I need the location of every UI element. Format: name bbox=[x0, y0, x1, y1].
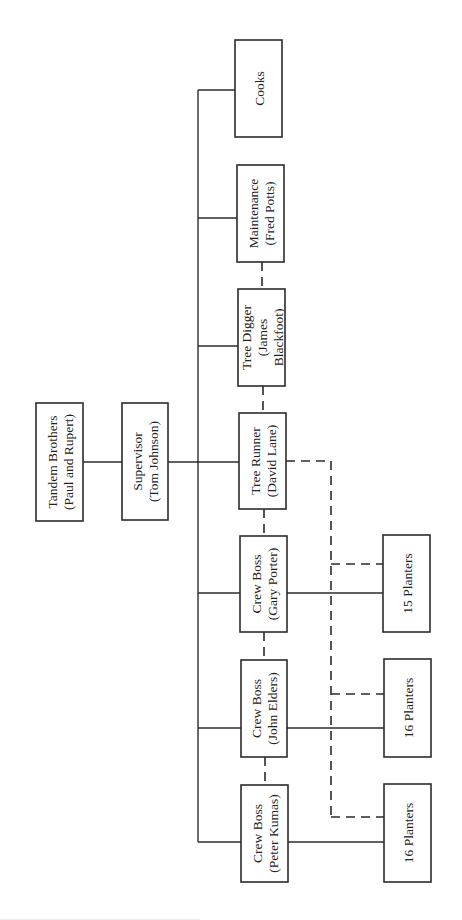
node-box bbox=[241, 785, 288, 882]
node-label: 15 Planters bbox=[400, 553, 415, 613]
node-tree-digger: Tree Digger(JamesBlackfoot) bbox=[238, 289, 286, 386]
node-label: Crew Boss(Peter Kumas) bbox=[250, 794, 281, 872]
node-label: Tree Runner(David Lane) bbox=[248, 425, 279, 497]
node-label-line: Supervisor bbox=[130, 432, 145, 491]
node-label-line: Cooks bbox=[252, 71, 267, 106]
node-label: Cooks bbox=[252, 71, 267, 106]
node-label: Maintenance(Fred Potts) bbox=[246, 179, 277, 249]
node-label: Tandem Brothers(Paul and Rupert) bbox=[45, 414, 76, 510]
node-label: 16 Planters bbox=[401, 678, 416, 738]
node-cooks: Cooks bbox=[235, 40, 282, 137]
org-nodes: Tandem Brothers(Paul and Rupert)Supervis… bbox=[36, 40, 431, 882]
node-box bbox=[239, 413, 286, 509]
node-label-line: 16 Planters bbox=[401, 803, 416, 863]
node-label-line: Blackfoot) bbox=[271, 309, 286, 367]
node-label: Crew Boss(John Elders) bbox=[249, 672, 280, 744]
node-label: Supervisor(Tom Johnson) bbox=[130, 421, 161, 502]
node-label-line: Crew Boss bbox=[249, 555, 264, 614]
node-label-line: (David Lane) bbox=[264, 425, 279, 497]
node-crew-boss-john: Crew Boss(John Elders) bbox=[241, 660, 287, 757]
node-planters-15: 15 Planters bbox=[383, 535, 430, 632]
node-label-line: Crew Boss bbox=[250, 804, 265, 863]
node-crew-boss-gary: Crew Boss(Gary Porter) bbox=[240, 536, 287, 632]
node-crew-boss-peter: Crew Boss(Peter Kumas) bbox=[241, 785, 288, 882]
node-label-line: (James bbox=[255, 319, 270, 357]
org-chart: Tandem Brothers(Paul and Rupert)Supervis… bbox=[0, 0, 462, 920]
node-label-line: (John Elders) bbox=[265, 672, 280, 744]
node-label-line: Crew Boss bbox=[249, 679, 264, 738]
node-label: Crew Boss(Gary Porter) bbox=[249, 548, 280, 620]
node-tandem: Tandem Brothers(Paul and Rupert) bbox=[36, 403, 83, 521]
node-planters-16-a: 16 Planters bbox=[384, 659, 431, 757]
node-tree-runner: Tree Runner(David Lane) bbox=[239, 413, 286, 509]
node-label-line: (Fred Potts) bbox=[262, 181, 277, 245]
node-box bbox=[241, 660, 287, 757]
dashed-line-tree-runner-supply bbox=[286, 461, 331, 817]
node-label-line: (Peter Kumas) bbox=[266, 794, 281, 872]
node-label-line: 15 Planters bbox=[400, 553, 415, 613]
node-maintenance: Maintenance(Fred Potts) bbox=[237, 165, 284, 262]
node-label-line: Tree Digger bbox=[239, 304, 254, 370]
node-box bbox=[240, 536, 287, 632]
node-box bbox=[122, 403, 168, 520]
node-label-line: Tandem Brothers bbox=[45, 415, 60, 508]
node-label-line: Maintenance bbox=[246, 179, 261, 249]
node-label: 16 Planters bbox=[401, 803, 416, 863]
node-box bbox=[36, 403, 83, 521]
node-label-line: Tree Runner bbox=[248, 427, 263, 495]
node-label-line: (Tom Johnson) bbox=[146, 421, 161, 502]
node-planters-16-b: 16 Planters bbox=[384, 784, 431, 882]
node-label-line: (Gary Porter) bbox=[265, 548, 280, 620]
node-label-line: (Paul and Rupert) bbox=[61, 414, 76, 510]
node-label-line: 16 Planters bbox=[401, 678, 416, 738]
node-box bbox=[237, 165, 284, 262]
node-supervisor: Supervisor(Tom Johnson) bbox=[122, 403, 168, 520]
